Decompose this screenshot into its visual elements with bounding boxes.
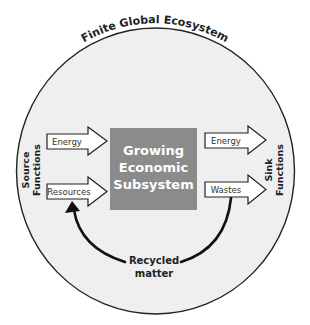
recycled-matter-line-1: Recycled [129, 255, 179, 266]
sink-wastes-label: Wastes [211, 185, 242, 195]
ecosystem-diagram: Finite Global Ecosystem Growing Economic… [0, 0, 310, 325]
svg-text:Sink: Sink [263, 158, 274, 182]
box-line-1: Growing [123, 143, 184, 158]
svg-text:Functions: Functions [274, 144, 285, 196]
sink-energy-label: Energy [211, 136, 241, 146]
source-energy-label: Energy [52, 137, 82, 147]
economic-subsystem-box: Growing Economic Subsystem [110, 128, 197, 210]
recycled-matter-line-2: matter [135, 268, 174, 279]
box-line-3: Subsystem [113, 177, 193, 192]
svg-text:Source: Source [20, 152, 31, 189]
source-resources-label: Resources [47, 187, 91, 197]
svg-text:Functions: Functions [31, 144, 42, 196]
box-line-2: Economic [119, 160, 188, 175]
